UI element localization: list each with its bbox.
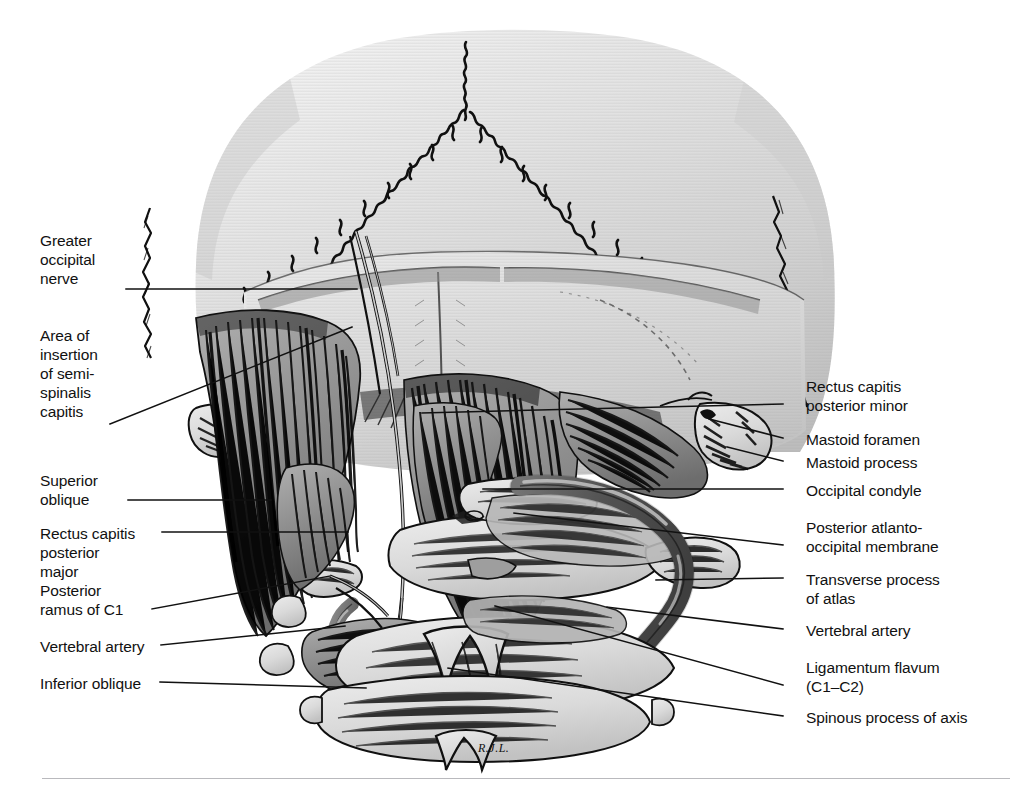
label-spinous-process-of-axis: Spinous process of axis [806, 708, 967, 727]
leader-vertebral-artery-right [607, 607, 783, 629]
label-vertebral-artery: Vertebral artery [40, 637, 144, 656]
label-transverse-process-of-atlas: Transverse process of atlas [806, 570, 940, 608]
label-ligamentum-flavum: Ligamentum flavum (C1–C2) [806, 658, 940, 696]
label-inferior-oblique: Inferior oblique [40, 674, 141, 693]
label-rectus-capitis-posterior-minor: Rectus capitis posterior minor [806, 377, 908, 415]
label-rectus-capitis-posterior-major: Rectus capitis posterior major [40, 524, 135, 581]
label-posterior-ramus-of-c1: Posterior ramus of C1 [40, 581, 123, 619]
label-mastoid-foramen: Mastoid foramen [806, 430, 920, 449]
cut-bone-edge-left [143, 208, 151, 358]
label-posterior-atlanto-occipital-membrane: Posterior atlanto- occipital membrane [806, 518, 939, 556]
label-greater-occipital-nerve: Greater occipital nerve [40, 231, 95, 288]
label-mastoid-process: Mastoid process [806, 453, 917, 472]
label-vertebral-artery-right: Vertebral artery [806, 621, 910, 640]
label-superior-oblique: Superior oblique [40, 471, 98, 509]
artist-signature: R.J.L. [477, 741, 509, 755]
anatomy-figure: R.J.L. Greater occipital nerveArea of in… [0, 0, 1024, 809]
footer-rule [42, 778, 1010, 779]
label-occipital-condyle: Occipital condyle [806, 481, 921, 500]
label-area-of-insertion-of-semispinalis-capitis: Area of insertion of semi- spinalis capi… [40, 326, 98, 421]
